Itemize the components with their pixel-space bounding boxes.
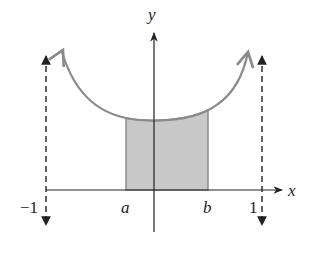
shaded-area	[126, 110, 208, 190]
y-axis-label: y	[146, 5, 156, 24]
tick-label-one: 1	[249, 198, 258, 217]
tick-label-b: b	[203, 198, 212, 217]
tick-label-a: a	[121, 198, 130, 217]
curve	[62, 52, 248, 120]
curve-left-arrow	[62, 50, 63, 52]
x-axis-label: x	[287, 181, 296, 200]
integral-diagram: y x −1 a b 1	[0, 0, 320, 264]
tick-label-neg-one: −1	[20, 198, 38, 217]
